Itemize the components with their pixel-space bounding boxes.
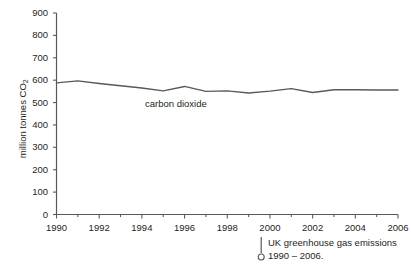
y-axis-tick-label: 200 <box>10 165 48 175</box>
chart-axes <box>53 13 398 219</box>
x-axis-tick-label: 2002 <box>302 223 323 233</box>
y-axis-tick-label: 400 <box>10 120 48 130</box>
y-axis-tick-label: 700 <box>10 53 48 63</box>
y-axis-title: million tonnes CO2 <box>18 44 28 194</box>
x-axis-ticks <box>57 215 399 219</box>
y-axis-title-subscript: 2 <box>22 79 29 83</box>
x-axis-tick-label: 2006 <box>387 223 408 233</box>
y-axis-tick-label: 100 <box>10 187 48 197</box>
series-annotation-carbon-dioxide: carbon dioxide <box>145 99 207 109</box>
figure-caption-line-2: 1990 – 2006. <box>268 249 411 262</box>
x-axis-tick-label: 1998 <box>217 223 238 233</box>
y-axis-tick-label: 900 <box>10 8 48 18</box>
pin-marker-icon <box>257 236 267 262</box>
figure-caption: UK greenhouse gas emissions 1990 – 2006. <box>268 236 411 262</box>
figure-caption-line-1: UK greenhouse gas emissions <box>268 236 411 249</box>
y-axis-tick-label: 800 <box>10 31 48 41</box>
y-axis-tick-label: 500 <box>10 98 48 108</box>
x-axis-tick-label: 1994 <box>131 223 152 233</box>
data-series-group <box>57 81 399 93</box>
data-line-carbon-dioxide <box>57 81 399 93</box>
x-axis-tick-label: 1992 <box>89 223 110 233</box>
x-axis-tick-label: 1996 <box>174 223 195 233</box>
y-axis-tick-label: 0 <box>10 210 48 220</box>
x-axis-tick-label: 2004 <box>345 223 366 233</box>
x-axis-tick-label: 2000 <box>259 223 280 233</box>
y-axis-title-text: million tonnes CO <box>17 83 28 158</box>
chart-figure: 0100200300400500600700800900 19901992199… <box>0 0 411 266</box>
x-axis-tick-label: 1990 <box>46 223 67 233</box>
y-axis-tick-label: 300 <box>10 143 48 153</box>
